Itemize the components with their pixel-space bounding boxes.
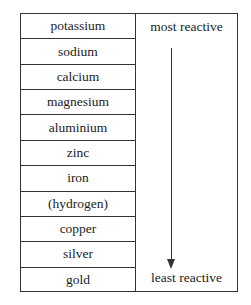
element-label: silver [63,246,93,262]
element-row: sodium [21,39,135,64]
element-row: zinc [21,141,135,166]
down-arrow-icon [171,48,172,261]
element-label: potassium [51,18,106,34]
element-label: magnesium [47,94,109,110]
element-label: (hydrogen) [48,196,108,212]
element-label: copper [60,221,97,237]
element-row: iron [21,166,135,191]
element-label: gold [66,272,90,288]
element-row: magnesium [21,90,135,115]
element-label: iron [67,170,89,186]
element-row: calcium [21,65,135,90]
element-label: aluminium [49,120,108,136]
element-label: sodium [58,44,98,60]
element-row: (hydrogen) [21,192,135,217]
least-reactive-label: least reactive [136,270,237,286]
arrow-head-icon [167,259,175,269]
element-row: copper [21,217,135,242]
element-label: calcium [57,69,100,85]
most-reactive-label: most reactive [136,19,237,35]
reactivity-series-table: potassium sodium calcium magnesium alumi… [20,13,238,292]
element-row: aluminium [21,115,135,140]
element-label: zinc [67,145,90,161]
element-row: potassium [21,14,135,39]
element-row: silver [21,242,135,267]
element-row: gold [21,268,135,293]
elements-column: potassium sodium calcium magnesium alumi… [21,14,136,291]
reactivity-column: most reactive least reactive [136,14,237,291]
